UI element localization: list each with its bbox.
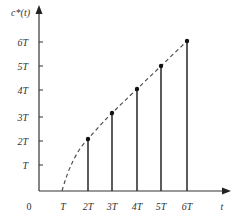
marker-dot-icon [185,39,189,43]
y-axis-label: c*(t) [11,7,31,19]
x-tick-label: 5T [156,201,168,212]
x-axis-arrow-icon [222,188,231,195]
y-axis-arrow-icon [36,5,43,14]
marker-dot-icon [86,137,90,141]
x-tick-label: 3T [106,201,119,212]
stems [88,41,187,191]
envelope-curve [62,41,187,191]
marker-dot-icon [135,87,139,91]
marker-dot-icon [110,111,114,115]
y-tick-label: 6T [17,37,29,48]
x-tick-label: T [60,201,67,212]
y-tick-label: 3T [16,112,29,123]
y-tick-label: T [22,160,29,171]
x-tick-label: 6T [182,201,194,212]
marker-dot-icon [159,64,163,68]
x-tick-label: 2T [83,201,95,212]
y-tick-label: 2T [17,136,29,147]
x-tick-label: 4T [132,201,144,212]
x-axis-label: t [221,201,224,212]
origin-label: 0 [27,201,32,212]
y-tick-label: 5T [17,61,29,72]
y-tick-label: 4T [17,85,29,96]
stem-chart: T 2T 3T 4T 5T 6T c*(t) 0 T 2T 3T 4T 5T 6… [0,0,236,223]
